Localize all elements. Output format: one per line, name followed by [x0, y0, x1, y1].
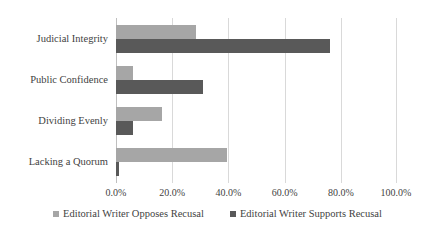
bar-opposes-judicial-integrity: [116, 25, 196, 39]
chart-legend: Editorial Writer Opposes Recusal Editori…: [0, 208, 435, 220]
legend-item-opposes: Editorial Writer Opposes Recusal: [53, 208, 204, 220]
legend-label-supports: Editorial Writer Supports Recusal: [240, 208, 382, 220]
bar-group-lacking-a-quorum: [116, 142, 397, 183]
bar-opposes-public-confidence: [116, 66, 133, 80]
plot-area: [116, 18, 397, 183]
x-axis-label-20: 20.0%: [159, 186, 185, 200]
legend-swatch-icon-opposes: [53, 211, 59, 217]
y-axis-label-1: Public Confidence: [0, 74, 108, 86]
x-axis-label-40: 40.0%: [215, 186, 241, 200]
x-axis-label-80: 80.0%: [328, 186, 354, 200]
legend-item-supports: Editorial Writer Supports Recusal: [230, 208, 382, 220]
x-axis-label-0: 0.0%: [106, 186, 127, 200]
bar-supports-lacking-a-quorum: [116, 162, 119, 176]
y-axis-labels: Judicial Integrity Public Confidence Div…: [0, 18, 112, 183]
bar-group-dividing-evenly: [116, 101, 397, 142]
legend-swatch-icon-supports: [230, 211, 236, 217]
bar-group-judicial-integrity: [116, 18, 397, 59]
bar-chart: Judicial Integrity Public Confidence Div…: [0, 0, 435, 236]
bar-supports-dividing-evenly: [116, 121, 133, 135]
bar-supports-judicial-integrity: [116, 39, 330, 53]
x-axis-label-60: 60.0%: [272, 186, 298, 200]
legend-label-opposes: Editorial Writer Opposes Recusal: [63, 208, 204, 220]
y-axis-label-2: Dividing Evenly: [0, 115, 108, 127]
y-axis-label-3: Lacking a Quorum: [0, 156, 108, 168]
x-axis-labels: 0.0% 20.0% 40.0% 60.0% 80.0% 100.0%: [116, 186, 397, 202]
bar-opposes-dividing-evenly: [116, 107, 162, 121]
x-axis-label-100: 100.0%: [381, 186, 412, 200]
bar-opposes-lacking-a-quorum: [116, 148, 227, 162]
bar-supports-public-confidence: [116, 80, 203, 94]
bar-group-public-confidence: [116, 59, 397, 100]
y-axis-label-0: Judicial Integrity: [0, 33, 108, 45]
